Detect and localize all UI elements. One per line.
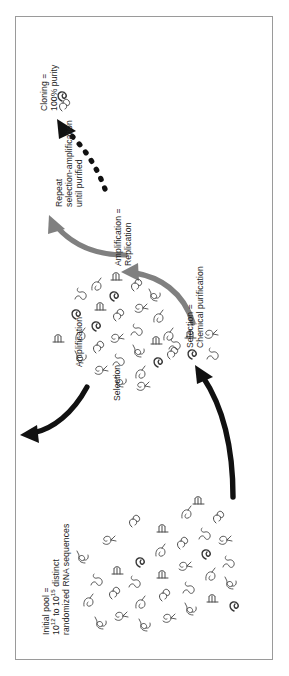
initial-pool-line3: randomized RNA sequences bbox=[61, 524, 71, 635]
amplification-replication-line2: Replication bbox=[123, 208, 133, 266]
selection-purification-line1: Selection = bbox=[185, 266, 195, 348]
repeat-line3: until purified bbox=[74, 120, 84, 207]
cloning-line1: Cloning = bbox=[39, 65, 49, 111]
amplification-replication-label: Amplification = Replication bbox=[113, 208, 133, 266]
initial-pool-cluster bbox=[77, 497, 238, 631]
figure-frame: Initial pool = 1012 to 1015 distinct ran… bbox=[15, 16, 273, 660]
cloning-label: Cloning = 100% purity bbox=[39, 65, 59, 111]
amplification-replication-line1: Amplification = bbox=[113, 208, 123, 266]
selection-label: Selection bbox=[112, 365, 122, 401]
initial-pool-label: Initial pool = 1012 to 1015 distinct ran… bbox=[41, 524, 72, 635]
diagram-canvas: Initial pool = 1012 to 1015 distinct ran… bbox=[17, 17, 273, 659]
repeat-line1: Repeat bbox=[54, 120, 64, 207]
repeat-line2: selection-amplification bbox=[64, 120, 74, 207]
selection-arrow bbox=[20, 387, 87, 443]
amplification-label: Amplification bbox=[74, 317, 84, 367]
selection-purification-line2: Chemical purification bbox=[195, 266, 205, 348]
cloning-stage-rna bbox=[58, 92, 70, 111]
cloning-line2: 100% purity bbox=[49, 65, 59, 111]
initial-pool-line2: 1012 to 1015 distinct bbox=[51, 524, 61, 635]
selection-chemical-purification-arrow bbox=[195, 365, 233, 497]
repeat-label: Repeat selection-amplification until pur… bbox=[54, 120, 85, 207]
selection-purification-label: Selection = Chemical purification bbox=[185, 266, 205, 348]
